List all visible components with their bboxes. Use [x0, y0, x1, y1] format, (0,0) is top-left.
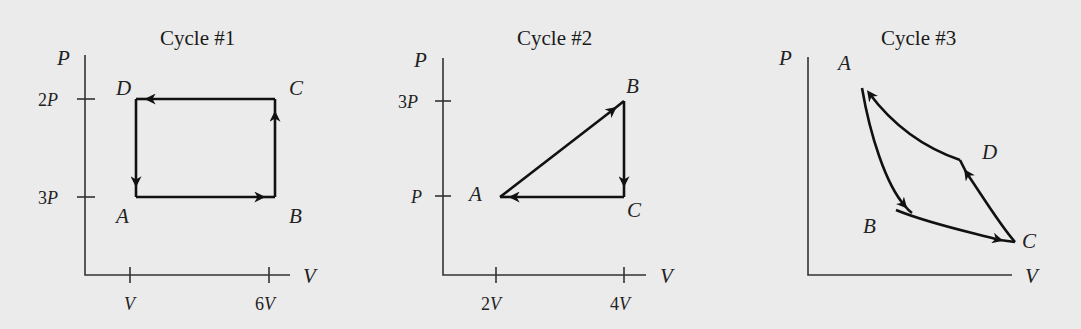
- cycle-1-point-b: B: [289, 204, 302, 228]
- cycle-1-title: Cycle #1: [160, 26, 235, 50]
- cycle-2-x-tick-label-2v: 2V: [481, 294, 503, 314]
- cycle-1-x-tick-label-v: V: [124, 294, 137, 314]
- pv-cycles-figure: Cycle #1 P V 2P 3P V 6V A B C D Cycle #2…: [0, 0, 1081, 329]
- cycle-3-segment-c-d: [966, 172, 1015, 242]
- cycle-3-segment-b-c: [896, 210, 1000, 240]
- cycle-3-point-a: A: [836, 51, 851, 75]
- cycle-2-segment-a-b: [500, 109, 614, 197]
- cycle-1-y-tick-label-2p: 2P: [38, 90, 58, 110]
- cycle-3-segment-a-b: [862, 88, 905, 206]
- cycle-2-axes: [443, 58, 646, 275]
- cycle-2-y-tick-label-3p: 3P: [398, 92, 418, 112]
- cycle-3-point-c: C: [1022, 229, 1037, 253]
- cycle-3-axes: [808, 57, 1012, 275]
- cycle-2-x-tick-label-4v: 4V: [610, 294, 632, 314]
- cycle-2-point-a: A: [467, 182, 482, 206]
- cycle-2-point-c: C: [627, 198, 642, 222]
- cycle-1-point-c: C: [289, 76, 304, 100]
- cycle-3-title: Cycle #3: [881, 26, 956, 50]
- cycle-1-diagram: Cycle #1 P V 2P 3P V 6V A B C D: [38, 26, 318, 314]
- cycle-3-x-axis-label: V: [1025, 264, 1040, 288]
- cycle-2-x-axis-label: V: [660, 264, 675, 288]
- cycle-1-y-axis-label: P: [56, 46, 70, 70]
- cycle-1-point-d: D: [115, 76, 131, 100]
- cycle-1-x-tick-label-6v: 6V: [255, 294, 277, 314]
- cycle-2-y-tick-label-p: P: [410, 187, 422, 207]
- cycle-2-title: Cycle #2: [517, 26, 592, 50]
- cycle-1-point-a: A: [114, 204, 129, 228]
- cycle-3-y-axis-label: P: [778, 46, 792, 70]
- cycle-2-point-b: B: [626, 74, 639, 98]
- cycle-1-x-axis-label: V: [303, 264, 318, 288]
- cycle-2-y-axis-label: P: [413, 48, 427, 72]
- cycle-3-point-b: B: [863, 214, 876, 238]
- cycle-3-diagram: Cycle #3 P V A B C D: [778, 26, 1040, 288]
- cycle-3-point-d: D: [981, 140, 997, 164]
- cycle-1-y-tick-label-3p: 3P: [38, 188, 58, 208]
- cycle-2-diagram: Cycle #2 P V 3P P 2V 4V A B C: [398, 26, 675, 314]
- cycle-3-segment-d-a: [869, 93, 960, 160]
